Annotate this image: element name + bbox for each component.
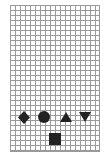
diamond-icon[interactable] — [18, 111, 30, 124]
triangle-down-icon[interactable] — [79, 112, 91, 122]
circle-icon[interactable] — [38, 111, 50, 123]
grid-board[interactable] — [10, 5, 100, 152]
triangle-up-icon[interactable] — [60, 112, 72, 122]
square-icon[interactable] — [49, 133, 61, 145]
